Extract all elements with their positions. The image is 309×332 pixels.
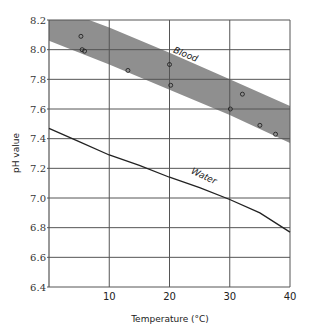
y-axis-ticks: 6.46.66.87.07.27.47.67.88.08.2 <box>30 15 46 293</box>
y-tick-label: 8.0 <box>30 44 46 55</box>
x-tick-label: 40 <box>284 291 297 302</box>
x-axis-ticks: 10203040 <box>103 291 296 302</box>
x-tick-label: 30 <box>223 291 236 302</box>
y-tick-label: 7.6 <box>30 104 46 115</box>
y-tick-label: 6.6 <box>30 252 46 263</box>
y-tick-label: 7.8 <box>30 74 46 85</box>
x-axis-label: Temperature (°C) <box>130 314 209 324</box>
ph-temperature-chart: 6.46.66.87.07.27.47.67.88.08.2 10203040 … <box>0 0 309 332</box>
y-tick-label: 7.4 <box>30 133 46 144</box>
curve-label-water: Water <box>190 166 220 187</box>
y-tick-label: 7.2 <box>30 163 46 174</box>
x-tick-label: 20 <box>163 291 176 302</box>
x-tick-label: 10 <box>103 291 116 302</box>
y-tick-label: 6.4 <box>30 282 46 293</box>
y-tick-label: 8.2 <box>30 15 46 26</box>
y-tick-label: 6.8 <box>30 222 46 233</box>
y-axis-label: pH value <box>11 133 21 173</box>
y-tick-label: 7.0 <box>30 193 46 204</box>
